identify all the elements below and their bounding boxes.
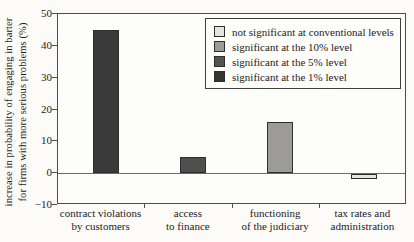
- plot-area: not significant at conventional levelssi…: [57, 13, 406, 204]
- legend-box: not significant at conventional levelssi…: [205, 18, 401, 89]
- x-category-label: contract violationsby customers: [57, 207, 144, 234]
- x-category-label: functioningof the judiciary: [232, 207, 319, 234]
- y-tick-label: 10: [18, 133, 52, 147]
- legend-swatch: [214, 41, 225, 52]
- y-tick-mark: [52, 13, 57, 14]
- y-tick-label: 40: [18, 38, 52, 52]
- barter-probability-figure: increase in probability of engaging in b…: [0, 0, 414, 242]
- y-tick-mark: [52, 45, 57, 46]
- legend-item: not significant at conventional levels: [214, 24, 394, 39]
- bar: [180, 157, 206, 173]
- legend-label: significant at the 10% level: [232, 41, 352, 53]
- x-category-label-line: access: [144, 207, 231, 220]
- x-category-label-line: of the judiciary: [232, 220, 319, 233]
- legend-label: significant at the 5% level: [232, 56, 347, 68]
- x-category-label-line: contract violations: [57, 207, 144, 220]
- x-category-label-line: by customers: [57, 220, 144, 233]
- legend-item: significant at the 5% level: [214, 54, 394, 69]
- legend-item: significant at the 1% level: [214, 69, 394, 84]
- y-tick-label: 50: [18, 6, 52, 20]
- x-category-label-line: functioning: [232, 207, 319, 220]
- y-tick-label: −10: [18, 197, 52, 211]
- y-tick-mark: [52, 172, 57, 173]
- x-category-label: tax rates andadministration: [319, 207, 406, 234]
- y-tick-mark: [52, 77, 57, 78]
- legend-swatch: [214, 56, 225, 67]
- legend-label: not significant at conventional levels: [232, 26, 394, 38]
- y-tick-label: 30: [18, 70, 52, 84]
- legend-swatch: [214, 26, 225, 37]
- bar: [267, 122, 293, 173]
- x-category-label-line: to finance: [144, 220, 231, 233]
- legend-label: significant at the 1% level: [232, 71, 347, 83]
- y-tick-label: 0: [18, 165, 52, 179]
- legend-item: significant at the 10% level: [214, 39, 394, 54]
- x-category-label-line: administration: [319, 220, 406, 233]
- legend-swatch: [214, 71, 225, 82]
- y-tick-mark: [52, 204, 57, 205]
- x-category-label-line: tax rates and: [319, 207, 406, 220]
- y-tick-mark: [52, 109, 57, 110]
- bar: [351, 174, 377, 179]
- y-tick-label: 20: [18, 102, 52, 116]
- y-axis-label-line1: increase in probability of engaging in b…: [2, 18, 16, 207]
- y-tick-mark: [52, 140, 57, 141]
- bar: [93, 30, 119, 173]
- x-category-label: accessto finance: [144, 207, 231, 234]
